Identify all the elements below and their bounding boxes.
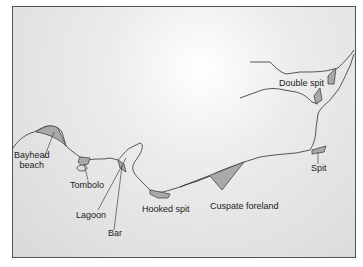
label-lagoon: Lagoon bbox=[76, 210, 106, 220]
label-double-spit: Double spit bbox=[279, 78, 324, 88]
label-cuspate-foreland: Cuspate foreland bbox=[210, 201, 279, 211]
label-bayhead-beach: Bayhead beach bbox=[14, 150, 50, 170]
leader-bar bbox=[114, 166, 122, 230]
bayhead-beach-deposit bbox=[36, 126, 66, 146]
label-bayhead-line1: Bayhead bbox=[14, 150, 50, 160]
estuary-lower bbox=[240, 89, 318, 105]
spit-deposit bbox=[312, 146, 326, 154]
label-hooked-spit: Hooked spit bbox=[142, 204, 190, 214]
label-bayhead-line2: beach bbox=[14, 160, 50, 170]
double-spit-deposit-lower bbox=[314, 88, 322, 104]
estuary-upper bbox=[250, 50, 354, 74]
label-tombolo: Tombolo bbox=[70, 180, 104, 190]
label-spit: Spit bbox=[311, 163, 327, 173]
coastline-map bbox=[0, 0, 363, 267]
cuspate-foreland-deposit bbox=[180, 162, 244, 190]
coastline bbox=[13, 54, 354, 192]
label-bar: Bar bbox=[108, 228, 122, 238]
